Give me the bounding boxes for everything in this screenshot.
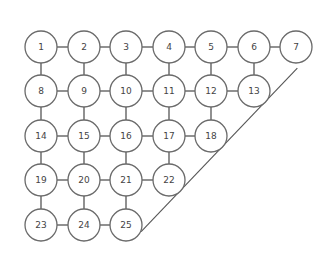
node-23: 23 xyxy=(25,209,57,241)
node-label: 18 xyxy=(205,131,217,141)
node-5: 5 xyxy=(195,31,227,63)
node-label: 21 xyxy=(120,175,131,185)
node-14: 14 xyxy=(25,120,57,152)
node-label: 17 xyxy=(163,131,174,141)
node-25: 25 xyxy=(110,209,142,241)
node-label: 2 xyxy=(81,42,87,52)
grid-graph: 1234567891011121314151617181920212223242… xyxy=(0,0,334,260)
node-19: 19 xyxy=(25,164,57,196)
node-4: 4 xyxy=(153,31,185,63)
node-label: 6 xyxy=(251,42,257,52)
node-18: 18 xyxy=(195,120,227,152)
node-3: 3 xyxy=(110,31,142,63)
node-12: 12 xyxy=(195,75,227,107)
node-label: 20 xyxy=(78,175,90,185)
node-label: 5 xyxy=(208,42,214,52)
node-1: 1 xyxy=(25,31,57,63)
nodes: 1234567891011121314151617181920212223242… xyxy=(25,31,312,241)
node-11: 11 xyxy=(153,75,185,107)
node-label: 22 xyxy=(163,175,174,185)
node-label: 9 xyxy=(81,86,87,96)
node-label: 23 xyxy=(35,220,46,230)
node-7: 7 xyxy=(280,31,312,63)
node-20: 20 xyxy=(68,164,100,196)
node-label: 12 xyxy=(205,86,216,96)
node-label: 3 xyxy=(123,42,129,52)
node-label: 13 xyxy=(248,86,259,96)
node-9: 9 xyxy=(68,75,100,107)
node-label: 15 xyxy=(78,131,89,141)
node-10: 10 xyxy=(110,75,142,107)
node-label: 25 xyxy=(120,220,131,230)
node-6: 6 xyxy=(238,31,270,63)
node-label: 19 xyxy=(35,175,47,185)
node-label: 16 xyxy=(120,131,132,141)
node-label: 7 xyxy=(293,42,299,52)
node-label: 10 xyxy=(120,86,132,96)
node-16: 16 xyxy=(110,120,142,152)
node-label: 11 xyxy=(163,86,174,96)
node-22: 22 xyxy=(153,164,185,196)
node-label: 14 xyxy=(35,131,47,141)
node-label: 1 xyxy=(38,42,44,52)
node-label: 4 xyxy=(166,42,172,52)
node-2: 2 xyxy=(68,31,100,63)
node-label: 24 xyxy=(78,220,90,230)
node-21: 21 xyxy=(110,164,142,196)
node-8: 8 xyxy=(25,75,57,107)
node-label: 8 xyxy=(38,86,44,96)
node-15: 15 xyxy=(68,120,100,152)
node-17: 17 xyxy=(153,120,185,152)
node-13: 13 xyxy=(238,75,270,107)
node-24: 24 xyxy=(68,209,100,241)
